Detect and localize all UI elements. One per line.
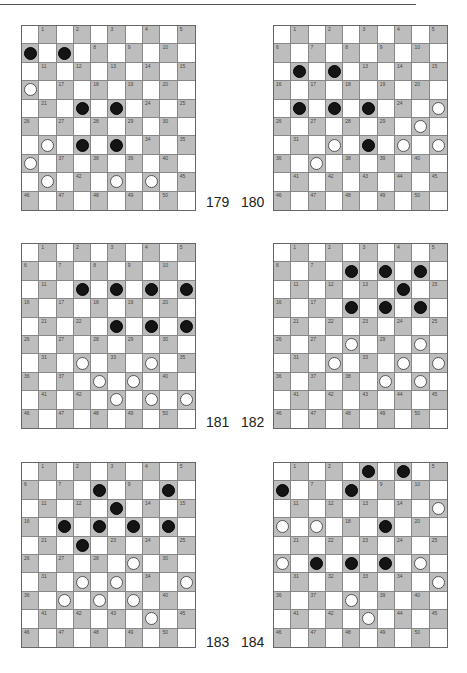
square-number: 9: [380, 482, 383, 487]
square-number: 22: [328, 319, 334, 324]
square-1: 1: [291, 244, 308, 262]
square-number: 43: [362, 174, 368, 179]
light-square: [291, 373, 308, 391]
square-24: 24: [395, 318, 412, 336]
square-19: 19: [378, 81, 395, 99]
square-6: 6: [22, 262, 39, 280]
square-47: 47: [57, 192, 74, 210]
square-14: 14: [143, 63, 160, 81]
square-number: 3: [362, 27, 365, 32]
light-square: [74, 192, 91, 210]
square-4: [395, 463, 412, 481]
square-number: 48: [345, 411, 351, 416]
light-square: [91, 244, 108, 262]
square-28: 28: [91, 555, 108, 573]
square-16: 16: [22, 299, 39, 317]
white-piece-icon: [58, 594, 71, 607]
square-number: 26: [24, 556, 30, 561]
light-square: [57, 318, 74, 336]
light-square: [309, 573, 326, 591]
square-45: 45: [178, 173, 195, 191]
square-39: 39: [126, 155, 143, 173]
square-number: 50: [414, 630, 420, 635]
square-39: 39: [378, 592, 395, 610]
square-29: 29: [378, 336, 395, 354]
square-number: 1: [293, 245, 296, 250]
square-3: [360, 463, 377, 481]
square-7: [57, 44, 74, 62]
square-36: [22, 155, 39, 173]
square-32: [326, 354, 343, 372]
square-36: 36: [274, 155, 291, 173]
square-number: 46: [24, 193, 30, 198]
square-42: 42: [74, 173, 91, 191]
square-number: 41: [293, 174, 299, 179]
light-square: [430, 518, 447, 536]
light-square: [395, 555, 412, 573]
square-number: 49: [380, 193, 386, 198]
square-number: 43: [110, 611, 116, 616]
square-15: 15: [430, 63, 447, 81]
square-18: [343, 299, 360, 317]
square-30: 30: [160, 555, 177, 573]
square-number: 6: [24, 482, 27, 487]
light-square: [343, 573, 360, 591]
square-41: 41: [39, 391, 56, 409]
black-piece-icon: [76, 139, 89, 152]
square-15: 15: [178, 500, 195, 518]
black-piece-icon: [276, 484, 289, 497]
square-number: 42: [76, 174, 82, 179]
square-number: 35: [180, 355, 186, 360]
black-piece-icon: [93, 484, 106, 497]
white-piece-icon: [145, 357, 158, 370]
square-5: 5: [178, 463, 195, 481]
square-number: 37: [59, 156, 65, 161]
square-16: 16: [274, 81, 291, 99]
light-square: [309, 281, 326, 299]
light-square: [309, 463, 326, 481]
light-square: [430, 629, 447, 647]
square-43: 43: [108, 610, 125, 628]
square-8: 8: [343, 44, 360, 62]
square-15: 15: [430, 281, 447, 299]
light-square: [178, 555, 195, 573]
light-square: [108, 592, 125, 610]
square-13: [108, 281, 125, 299]
square-number: 11: [41, 282, 46, 287]
square-number: 27: [59, 337, 65, 342]
square-number: 2: [76, 464, 79, 469]
light-square: [291, 629, 308, 647]
square-42: 42: [326, 391, 343, 409]
square-7: 7: [57, 262, 74, 280]
square-number: 47: [59, 630, 65, 635]
square-18: 18: [91, 81, 108, 99]
black-piece-icon: [397, 465, 410, 478]
square-number: 23: [362, 538, 368, 543]
square-1: 1: [39, 26, 56, 44]
light-square: [309, 354, 326, 372]
square-number: 8: [345, 45, 348, 50]
light-square: [430, 155, 447, 173]
square-number: 13: [110, 64, 116, 69]
light-square: [91, 281, 108, 299]
square-10: [412, 262, 429, 280]
square-number: 20: [162, 300, 168, 305]
board-184: 1257910111213141820212223242531323334363…: [273, 462, 448, 648]
square-number: 46: [276, 630, 282, 635]
light-square: [378, 281, 395, 299]
square-41: 41: [291, 173, 308, 191]
light-square: [430, 373, 447, 391]
square-number: 24: [145, 538, 151, 543]
square-number: 47: [311, 630, 317, 635]
light-square: [395, 155, 412, 173]
light-square: [57, 354, 74, 372]
white-piece-icon: [414, 120, 427, 133]
square-number: 37: [59, 374, 65, 379]
square-15: 15: [178, 63, 195, 81]
square-42: 42: [326, 173, 343, 191]
square-23: 23: [360, 537, 377, 555]
light-square: [291, 592, 308, 610]
square-43: [108, 391, 125, 409]
light-square: [378, 173, 395, 191]
light-square: [326, 262, 343, 280]
